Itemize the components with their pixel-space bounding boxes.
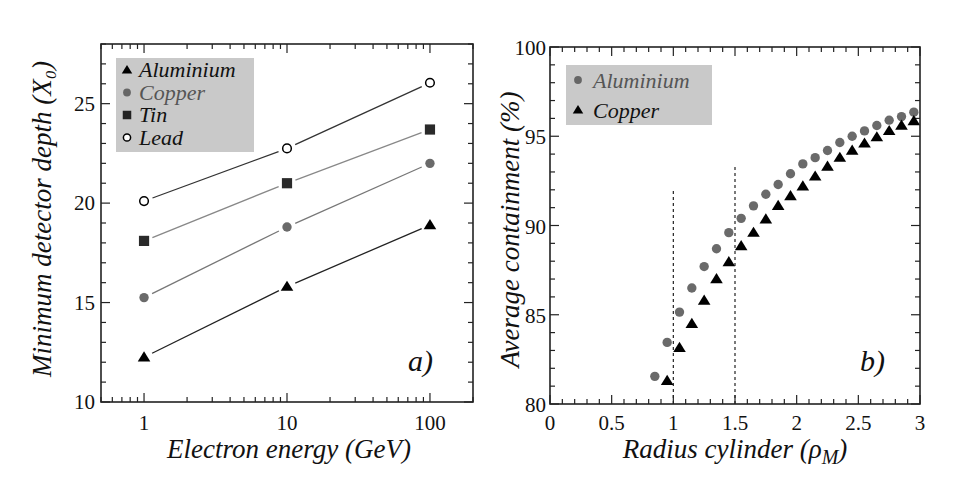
x-tick-label: 2.5 — [845, 411, 871, 435]
figure: AluminiumCopperTinLead 11010010152025 El… — [0, 0, 956, 496]
y-tick-label: 20 — [74, 191, 95, 215]
x-tick-label: 3 — [915, 411, 926, 435]
x-tick-label: 100 — [414, 411, 446, 435]
circle-marker — [650, 372, 659, 381]
y-tick-label: 80 — [525, 393, 546, 417]
x-tick-label: 1 — [139, 411, 150, 435]
triangle-marker — [723, 256, 736, 266]
triangle-marker — [698, 294, 711, 304]
x-tick-label: 1 — [668, 411, 679, 435]
panel-b-y-axis-title: Average containment (%) — [495, 92, 525, 370]
triangle-marker — [784, 190, 797, 200]
circle-marker — [574, 76, 582, 84]
legend-label-copper: Copper — [593, 98, 659, 123]
circle-marker — [662, 338, 671, 347]
y-tick-label: 95 — [525, 125, 546, 149]
legend-label-aluminium: Aluminium — [591, 68, 690, 93]
triangle-marker — [834, 152, 847, 162]
circle-marker — [798, 159, 807, 168]
triangle-marker — [846, 145, 859, 155]
triangle-marker — [908, 115, 921, 125]
x-tick-label: 2 — [791, 411, 802, 435]
circle-marker — [123, 89, 131, 97]
circle-marker — [884, 116, 893, 125]
circle-marker — [699, 262, 708, 271]
circle-marker — [860, 126, 869, 135]
open-circle-marker — [123, 134, 130, 141]
triangle-marker — [673, 342, 686, 352]
circle-marker — [675, 307, 684, 316]
circle-marker — [712, 244, 721, 253]
triangle-marker — [821, 161, 834, 171]
series-aluminium — [138, 219, 437, 361]
circle-marker — [749, 201, 758, 210]
triangle-marker — [760, 213, 773, 223]
circle-marker — [736, 214, 745, 223]
legend-label-tin: Tin — [139, 102, 167, 127]
triangle-marker — [858, 137, 871, 147]
panel-a-y-axis-title: Minimum detector depth (X₀) — [27, 61, 57, 378]
y-tick-label: 100 — [515, 36, 547, 60]
open-circle-marker — [283, 144, 292, 153]
y-tick-label: 85 — [525, 304, 546, 328]
triangle-marker — [686, 318, 699, 328]
circle-marker — [773, 180, 782, 189]
circle-marker — [786, 169, 795, 178]
circle-marker — [823, 146, 832, 155]
x-tick-label: 1.5 — [722, 411, 748, 435]
panel-b-label: b) — [860, 344, 885, 378]
legend-label-lead: Lead — [138, 125, 184, 150]
panel-b-x-axis-title: Radius cylinder (ρM) — [622, 434, 848, 468]
legend-label-copper: Copper — [139, 80, 205, 105]
triangle-marker — [661, 375, 674, 385]
square-marker — [425, 124, 435, 134]
y-tick-label: 15 — [74, 291, 95, 315]
circle-marker — [282, 222, 291, 231]
panel-a-legend: AluminiumCopperTinLead — [116, 57, 254, 152]
triangle-marker — [710, 273, 723, 283]
series-aluminium — [650, 107, 918, 381]
circle-marker — [425, 159, 434, 168]
y-tick-label: 10 — [74, 390, 95, 414]
x-tick-label: 10 — [277, 411, 298, 435]
x-tick-label: 0 — [545, 411, 556, 435]
circle-marker — [687, 283, 696, 292]
panel-b-dashed-reference-lines — [673, 167, 735, 404]
triangle-marker — [895, 120, 908, 130]
triangle-marker — [747, 227, 760, 237]
panel-b-chart: AluminiumCopper 00.511.522.5380859095100… — [495, 36, 925, 468]
x-tick-label: 0.5 — [599, 411, 625, 435]
triangle-marker — [281, 281, 294, 291]
open-circle-marker — [140, 197, 149, 206]
circle-marker — [847, 132, 856, 141]
y-tick-label: 25 — [74, 92, 95, 116]
triangle-marker — [772, 200, 785, 210]
triangle-marker — [138, 351, 151, 361]
triangle-marker — [871, 131, 884, 141]
circle-marker — [724, 228, 733, 237]
legend-label-aluminium: Aluminium — [137, 57, 236, 82]
triangle-marker — [883, 125, 896, 135]
square-marker — [282, 178, 292, 188]
triangle-marker — [735, 240, 748, 250]
triangle-marker — [809, 170, 822, 180]
circle-marker — [872, 121, 881, 130]
panel-a-x-axis-title: Electron energy (GeV) — [166, 434, 411, 464]
circle-marker — [835, 138, 844, 147]
panel-a-label: a) — [408, 344, 433, 378]
y-tick-label: 90 — [525, 215, 546, 239]
circle-marker — [810, 153, 819, 162]
panel-a-chart: AluminiumCopperTinLead 11010010152025 El… — [27, 44, 473, 464]
circle-marker — [139, 293, 148, 302]
square-marker — [139, 236, 149, 246]
panel-b-legend: AluminiumCopper — [566, 65, 712, 125]
open-circle-marker — [426, 78, 435, 87]
square-marker — [123, 111, 132, 120]
triangle-marker — [797, 180, 810, 190]
triangle-marker — [424, 219, 437, 229]
circle-marker — [761, 190, 770, 199]
